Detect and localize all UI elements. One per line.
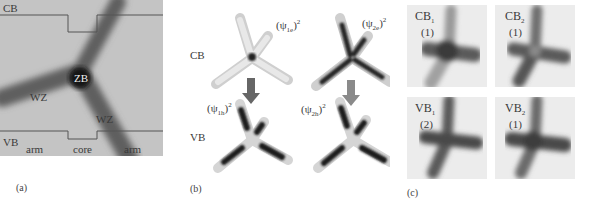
vb-row-label: VB — [190, 132, 205, 143]
psi2e-label: (ψ2e)2 — [362, 18, 386, 29]
cb-row-label: CB — [190, 50, 205, 61]
psi2h-label: (ψ2h)2 — [301, 104, 326, 115]
tetrapod-arms — [2, 2, 130, 156]
panel-b-label: (b) — [190, 183, 202, 194]
panel-c-label: (c) — [407, 187, 418, 198]
psi2h-tetrapod — [318, 102, 390, 168]
vb-band-line — [0, 131, 163, 139]
core-label: core — [73, 144, 92, 155]
cb1-degeneracy: (1) — [421, 27, 434, 38]
vb-label: VB — [3, 137, 18, 148]
tile-vb2: VB2 (1) — [495, 97, 575, 179]
psi1e-label: (ψ1e)2 — [276, 20, 300, 31]
arm-label-right: arm — [124, 144, 141, 155]
cb-label: CB — [3, 3, 18, 14]
vb2-label: VB2 — [505, 102, 525, 114]
cb2-degeneracy: (1) — [509, 27, 522, 38]
wz-label-left: WZ — [30, 92, 47, 103]
psi1h-label: (ψ1h)2 — [207, 103, 232, 114]
panel-a-band-diagram: CB VB ZB WZ WZ arm core arm — [0, 0, 163, 156]
tile-cb1: CB1 (1) — [407, 5, 487, 87]
panel-b-wavefunctions: CB VB (ψ1e)2 (ψ2e)2 (ψ1h)2 (ψ2h)2 (b) — [190, 0, 390, 204]
arm-label-left: arm — [26, 144, 43, 155]
cb-band-line — [0, 15, 163, 32]
vb1-degeneracy: (2) — [420, 119, 433, 130]
vb2-degeneracy: (1) — [509, 119, 522, 130]
cb1-label: CB1 — [415, 10, 435, 22]
panel-c-charge-density: CB1 (1) CB2 (1) VB1 (2) — [407, 0, 589, 204]
cb2-label: CB2 — [505, 10, 525, 22]
tile-cb2: CB2 (1) — [495, 5, 575, 87]
zb-label: ZB — [74, 73, 88, 84]
wz-label-right: WZ — [96, 114, 113, 125]
vb1-label: VB1 — [415, 102, 435, 114]
panel-a-label: (a) — [16, 182, 27, 193]
tile-vb1: VB1 (2) — [407, 97, 487, 179]
transition-arrow-left — [242, 78, 260, 104]
